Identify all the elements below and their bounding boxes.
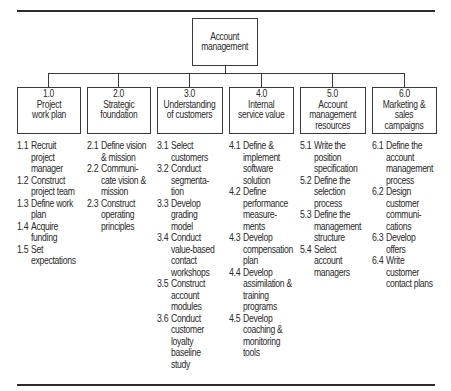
branch-items-2: 2.1Define vision & mission2.2Communi- ca… bbox=[87, 140, 154, 232]
list-item: 1.5Set expectations bbox=[17, 244, 83, 267]
item-number: 1.4 bbox=[17, 221, 29, 244]
branch-title: Marketing & sales campaigns bbox=[383, 100, 426, 132]
item-text: Select customers bbox=[171, 140, 208, 163]
item-number: 4.3 bbox=[229, 232, 241, 267]
branch-connector-1 bbox=[48, 73, 49, 87]
list-item: 3.2Conduct segmenta- tion bbox=[157, 163, 222, 198]
item-text: Develop compensation plan bbox=[243, 232, 293, 267]
branch-items-3: 3.1Select customers3.2Conduct segmenta- … bbox=[157, 140, 222, 370]
item-number: 6.1 bbox=[372, 140, 384, 186]
root-label: Account management bbox=[201, 32, 248, 53]
item-text: Construct operating principles bbox=[101, 198, 135, 233]
item-text: Conduct value-based contact workshops bbox=[171, 232, 215, 278]
list-item: 6.2Design customer communi- cations bbox=[372, 186, 441, 232]
item-text: Define & implement software solution bbox=[243, 140, 280, 186]
item-number: 3.6 bbox=[157, 313, 169, 371]
branch-connector-4 bbox=[261, 73, 262, 87]
item-number: 5.1 bbox=[300, 140, 312, 175]
list-item: 1.2Construct project team bbox=[17, 175, 83, 198]
item-number: 4.2 bbox=[229, 186, 241, 232]
branch-title: Internal service value bbox=[238, 100, 284, 121]
branch-connector-5 bbox=[332, 73, 333, 87]
branch-title: Account management resources bbox=[309, 100, 356, 132]
branch-connector-6 bbox=[404, 73, 405, 87]
list-item: 4.5Develop coaching & monitoring tools bbox=[229, 313, 301, 359]
item-text: Construct account modules bbox=[171, 278, 205, 313]
item-text: Develop coaching & monitoring tools bbox=[243, 313, 283, 359]
list-item: 1.1Recruit project manager bbox=[17, 140, 83, 175]
branch-node-4: 4.0 Internal service value bbox=[229, 87, 294, 134]
item-number: 3.3 bbox=[157, 198, 169, 233]
root-node-account-management: Account management bbox=[192, 18, 258, 66]
list-item: 3.4Conduct value-based contact workshops bbox=[157, 232, 222, 278]
item-text: Develop assimilation & training programs bbox=[243, 267, 292, 313]
item-text: Write customer contact plans bbox=[386, 255, 433, 290]
item-number: 1.2 bbox=[17, 175, 29, 198]
item-text: Recruit project manager bbox=[31, 140, 63, 175]
item-number: 4.5 bbox=[229, 313, 241, 359]
item-number: 5.2 bbox=[300, 175, 312, 210]
item-number: 4.4 bbox=[229, 267, 241, 313]
item-number: 3.1 bbox=[157, 140, 169, 163]
item-number: 6.4 bbox=[372, 255, 384, 290]
list-item: 6.3Develop offers bbox=[372, 232, 441, 255]
branch-node-1: 1.0 Project work plan bbox=[17, 87, 81, 134]
item-text: Define work plan bbox=[31, 198, 73, 221]
item-text: Define performance measure- ments bbox=[243, 186, 288, 232]
branch-node-3: 3.0 Understanding of customers bbox=[157, 87, 223, 134]
item-number: 3.2 bbox=[157, 163, 169, 198]
list-item: 1.3Define work plan bbox=[17, 198, 83, 221]
item-number: 3.4 bbox=[157, 232, 169, 278]
list-item: 3.5Construct account modules bbox=[157, 278, 222, 313]
list-item: 4.2Define performance measure- ments bbox=[229, 186, 301, 232]
item-text: Acquire funding bbox=[31, 221, 58, 244]
item-text: Define the selection process bbox=[314, 175, 350, 210]
branch-connector-horizontal bbox=[48, 73, 405, 74]
item-text: Define the management structure bbox=[314, 209, 361, 244]
item-text: Define vision & mission bbox=[101, 140, 146, 163]
list-item: 4.3Develop compensation plan bbox=[229, 232, 301, 267]
item-text: Develop offers bbox=[386, 232, 415, 255]
branch-node-2: 2.0 Strategic foundation bbox=[87, 87, 151, 134]
list-item: 6.1Define the account management process bbox=[372, 140, 441, 186]
item-number: 6.3 bbox=[372, 232, 384, 255]
list-item: 4.4Develop assimilation & training progr… bbox=[229, 267, 301, 313]
list-item: 3.6Conduct customer loyalty baseline stu… bbox=[157, 313, 222, 371]
branch-title: Strategic foundation bbox=[100, 100, 137, 121]
item-number: 6.2 bbox=[372, 186, 384, 232]
item-number: 1.5 bbox=[17, 244, 29, 267]
top-rule bbox=[17, 10, 435, 12]
item-number: 3.5 bbox=[157, 278, 169, 313]
item-number: 2.1 bbox=[87, 140, 99, 163]
item-text: Communi- cate vision & mission bbox=[101, 163, 146, 198]
item-number: 4.1 bbox=[229, 140, 241, 186]
branch-connector-3 bbox=[189, 73, 190, 87]
item-text: Develop grading model bbox=[171, 198, 200, 233]
item-number: 2.2 bbox=[87, 163, 99, 198]
list-item: 1.4Acquire funding bbox=[17, 221, 83, 244]
item-number: 2.3 bbox=[87, 198, 99, 233]
item-number: 1.3 bbox=[17, 198, 29, 221]
list-item: 3.1Select customers bbox=[157, 140, 222, 163]
bottom-rule bbox=[17, 384, 435, 386]
item-text: Conduct segmenta- tion bbox=[171, 163, 209, 198]
branch-items-1: 1.1Recruit project manager1.2Construct p… bbox=[17, 140, 83, 267]
list-item: 2.1Define vision & mission bbox=[87, 140, 154, 163]
item-number: 5.4 bbox=[300, 244, 312, 279]
branch-node-5: 5.0 Account management resources bbox=[300, 87, 366, 134]
list-item: 5.3Define the management structure bbox=[300, 209, 369, 244]
branch-items-6: 6.1Define the account management process… bbox=[372, 140, 441, 290]
branch-items-5: 5.1Write the position specification5.2De… bbox=[300, 140, 369, 278]
item-number: 5.3 bbox=[300, 209, 312, 244]
list-item: 5.4Select account managers bbox=[300, 244, 369, 279]
list-item: 3.3Develop grading model bbox=[157, 198, 222, 233]
item-text: Construct project team bbox=[31, 175, 75, 198]
branch-title: Understanding of customers bbox=[164, 100, 216, 121]
item-text: Select account managers bbox=[314, 244, 350, 279]
list-item: 6.4Write customer contact plans bbox=[372, 255, 441, 290]
list-item: 2.3Construct operating principles bbox=[87, 198, 154, 233]
item-text: Write the position specification bbox=[314, 140, 357, 175]
branch-node-6: 6.0 Marketing & sales campaigns bbox=[372, 87, 437, 134]
list-item: 5.2Define the selection process bbox=[300, 175, 369, 210]
item-text: Define the account management process bbox=[386, 140, 433, 186]
